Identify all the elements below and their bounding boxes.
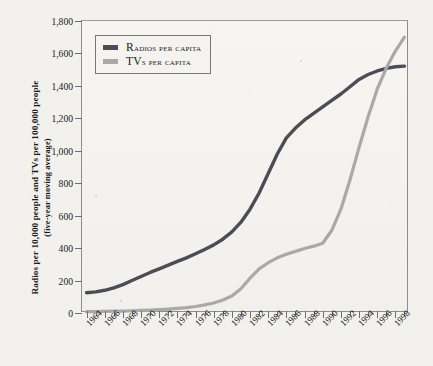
y-axis-tick-label: 1,800 <box>51 16 73 27</box>
y-axis-tick-label: 800 <box>59 178 73 189</box>
y-axis-tick-label: 1,400 <box>51 80 73 91</box>
legend-label-tvs-rest: s per capita <box>142 56 191 67</box>
y-axis-tick <box>75 151 82 152</box>
y-axis-tick-label: 200 <box>59 275 73 286</box>
y-axis-tick <box>75 183 82 184</box>
paper-speckle <box>300 60 302 62</box>
chart-figure: Radios per 10,000 people and TVs per 100… <box>0 0 433 366</box>
y-axis-title: Radios per 10,000 people and TVs per 100… <box>30 43 53 333</box>
legend-label-tvs-initial: TV <box>126 55 142 68</box>
y-axis-tick-label: 400 <box>59 243 73 254</box>
series-line-radios <box>87 66 405 293</box>
paper-speckle <box>120 300 122 302</box>
legend-label-radios: Radios per capita <box>126 41 201 54</box>
y-axis-tick <box>75 216 82 217</box>
legend-label-radios-rest: adios per capita <box>134 42 201 53</box>
legend-swatch-tvs <box>103 59 118 64</box>
y-axis-tick-label: 0 <box>68 308 73 319</box>
y-axis-tick-label: 1,000 <box>51 145 73 156</box>
legend-label-radios-initial: R <box>126 41 134 54</box>
y-axis-tick-label: 600 <box>59 210 73 221</box>
y-axis-tick <box>75 248 82 249</box>
y-axis-tick-label: 1,600 <box>51 48 73 59</box>
legend-item-tvs: TVs per capita <box>103 54 201 68</box>
y-axis-title-line1: Radios per 10,000 people and TVs per 100… <box>30 43 42 333</box>
series-line-tvs <box>87 37 405 311</box>
y-axis-tick <box>75 313 82 314</box>
y-axis-tick <box>75 21 82 22</box>
legend-label-tvs: TVs per capita <box>126 55 191 68</box>
chart-legend: Radios per capita TVs per capita <box>95 35 211 74</box>
paper-speckle <box>95 195 97 197</box>
y-axis-tick <box>75 281 82 282</box>
y-axis-tick-label: 1,200 <box>51 113 73 124</box>
legend-swatch-radios <box>103 45 118 50</box>
legend-item-radios: Radios per capita <box>103 40 201 54</box>
y-axis-tick <box>75 118 82 119</box>
y-axis-tick <box>75 53 82 54</box>
y-axis-tick <box>75 86 82 87</box>
paper-speckle <box>60 120 62 122</box>
plot-area: Radios per capita TVs per capita 1,8001,… <box>81 20 408 312</box>
